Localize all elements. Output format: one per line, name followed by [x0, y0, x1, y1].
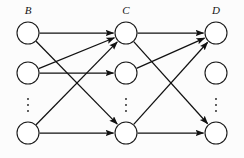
ellipsis-dot	[215, 98, 217, 100]
nodes-group	[17, 22, 227, 144]
node-d2[interactable]	[205, 62, 227, 84]
node-c2[interactable]	[115, 62, 137, 84]
edge-b2-to-c1	[39, 38, 115, 69]
ellipsis-dot	[125, 110, 127, 112]
layer-label-d: D	[211, 4, 220, 16]
node-d3[interactable]	[205, 122, 227, 144]
figure-canvas: BCD	[0, 0, 244, 158]
ellipsis-d	[215, 98, 217, 112]
layer-label-b: B	[25, 4, 32, 16]
node-b1[interactable]	[17, 22, 39, 44]
ellipsis-dot	[215, 110, 217, 112]
node-d1[interactable]	[205, 22, 227, 44]
node-c3[interactable]	[115, 122, 137, 144]
node-c1[interactable]	[115, 22, 137, 44]
ellipsis-dot	[215, 104, 217, 106]
edge-c2-to-d1	[137, 38, 205, 68]
ellipsis-dot	[125, 104, 127, 106]
ellipsis-b	[27, 98, 29, 112]
node-b2[interactable]	[17, 62, 39, 84]
ellipsis-dot	[125, 98, 127, 100]
ellipsis-dot	[27, 110, 29, 112]
ellipsis-dot	[27, 104, 29, 106]
node-b3[interactable]	[17, 122, 39, 144]
layered-graph-svg: BCD	[0, 0, 244, 158]
layer-labels-group: BCD	[25, 4, 220, 16]
layer-label-c: C	[122, 4, 130, 16]
ellipsis-c	[125, 98, 127, 112]
ellipsis-dot	[27, 98, 29, 100]
